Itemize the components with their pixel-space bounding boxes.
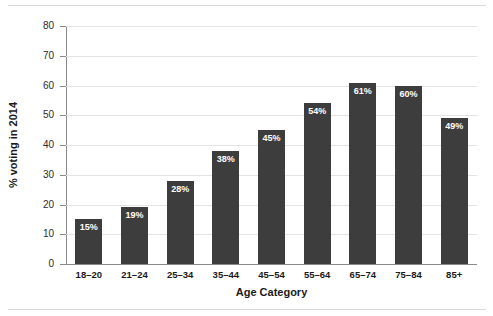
bar[interactable]: 19%: [121, 207, 148, 264]
gridline: [66, 56, 477, 57]
y-axis-tick-label: 20: [14, 200, 54, 210]
y-axis-tick-label: 0: [14, 259, 54, 269]
x-axis-tick-label: 85+: [424, 269, 484, 280]
bar-value-label: 19%: [121, 210, 148, 220]
bar[interactable]: 45%: [258, 130, 285, 264]
y-axis-tick-label: 10: [14, 229, 54, 239]
gridline: [66, 26, 477, 27]
bar[interactable]: 54%: [304, 103, 331, 264]
bar-value-label: 28%: [167, 184, 194, 194]
bar-value-label: 15%: [75, 222, 102, 232]
y-axis-tick-label: 40: [14, 140, 54, 150]
y-axis-tick-label: 30: [14, 170, 54, 180]
bar[interactable]: 61%: [349, 83, 376, 264]
y-axis-tick-label: 60: [14, 81, 54, 91]
x-axis-label: Age Category: [66, 286, 477, 298]
y-axis-tick-label: 80: [14, 21, 54, 31]
bar[interactable]: 38%: [212, 151, 239, 264]
x-axis-line: [66, 264, 477, 265]
bar-value-label: 61%: [349, 86, 376, 96]
bar[interactable]: 60%: [395, 86, 422, 265]
bar-value-label: 49%: [441, 121, 468, 131]
figure-top-rule: [8, 5, 486, 6]
figure-bottom-rule: [8, 309, 486, 310]
bar-value-label: 54%: [304, 106, 331, 116]
y-axis-tick-label: 50: [14, 110, 54, 120]
bar[interactable]: 15%: [75, 219, 102, 264]
plot-area: 15%19%28%38%45%54%61%60%49%: [66, 26, 477, 264]
y-axis-tick-label: 70: [14, 51, 54, 61]
bar[interactable]: 28%: [167, 181, 194, 264]
bar-value-label: 38%: [212, 154, 239, 164]
bar-chart-figure: % voting in 2014 01020304050607080 15%19…: [0, 0, 493, 316]
bar[interactable]: 49%: [441, 118, 468, 264]
bar-value-label: 60%: [395, 89, 422, 99]
bar-value-label: 45%: [258, 133, 285, 143]
